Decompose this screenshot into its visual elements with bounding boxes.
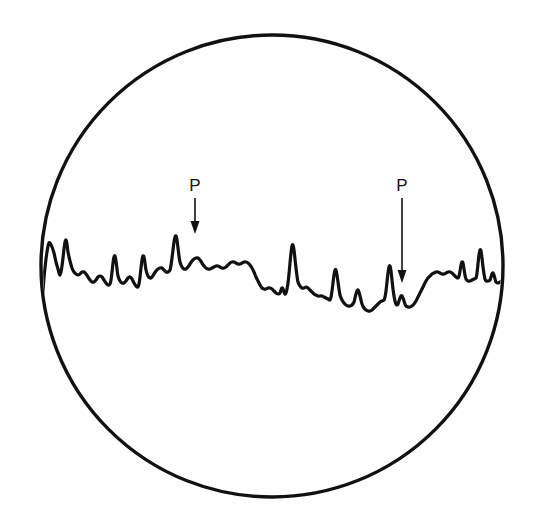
figure-background bbox=[0, 0, 543, 519]
figure-container: P P bbox=[0, 0, 543, 519]
p-wave-label-right: P bbox=[396, 176, 407, 195]
ecg-figure-svg: P P bbox=[0, 0, 543, 519]
p-wave-label-left: P bbox=[189, 176, 200, 195]
